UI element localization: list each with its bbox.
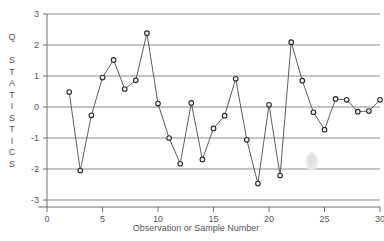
chart-container: Q STATISTICS 051015202530 -3-2-10123 Obs… bbox=[0, 0, 384, 241]
y-axis-label-letter: S bbox=[4, 55, 20, 67]
y-tick-label-1: 1 bbox=[34, 71, 39, 81]
data-point bbox=[367, 109, 372, 114]
y-axis-label: Q STATISTICS bbox=[4, 32, 20, 170]
y-axis-ticks bbox=[43, 14, 47, 200]
data-point bbox=[256, 181, 261, 186]
data-point bbox=[78, 168, 83, 173]
y-tick-label--1: -1 bbox=[31, 133, 39, 143]
series-q-statistic-line bbox=[69, 33, 380, 183]
x-tick-label-25: 25 bbox=[319, 214, 329, 224]
data-point bbox=[344, 98, 349, 103]
x-axis-ticks bbox=[47, 207, 380, 212]
data-point bbox=[311, 110, 316, 115]
y-tick-label-3: 3 bbox=[34, 9, 39, 19]
data-point bbox=[100, 75, 105, 80]
x-tick-label-5: 5 bbox=[100, 214, 105, 224]
data-point bbox=[378, 98, 383, 103]
data-point bbox=[167, 136, 172, 141]
data-point bbox=[211, 126, 216, 131]
data-point-markers bbox=[67, 31, 382, 186]
q-statistics-line-chart: 051015202530 -3-2-10123 Observation or S… bbox=[0, 0, 384, 241]
data-point bbox=[289, 40, 294, 45]
y-axis-label-letter: T bbox=[4, 124, 20, 136]
data-point bbox=[300, 78, 305, 83]
data-point bbox=[178, 161, 183, 166]
y-axis-label-letter: I bbox=[4, 136, 20, 148]
y-axis-tick-labels: -3-2-10123 bbox=[31, 9, 39, 205]
y-axis-label-letter bbox=[4, 44, 20, 56]
data-point bbox=[111, 58, 116, 63]
y-tick-label-2: 2 bbox=[34, 40, 39, 50]
y-tick-label-0: 0 bbox=[34, 102, 39, 112]
data-point bbox=[267, 103, 272, 108]
y-axis-label-letter: I bbox=[4, 101, 20, 113]
x-tick-label-20: 20 bbox=[264, 214, 274, 224]
x-tick-label-30: 30 bbox=[375, 214, 384, 224]
gridlines bbox=[47, 14, 380, 200]
data-point bbox=[322, 127, 327, 132]
data-point bbox=[189, 101, 194, 106]
y-tick-label--2: -2 bbox=[31, 164, 39, 174]
data-point bbox=[245, 138, 250, 143]
y-axis-label-letter: T bbox=[4, 90, 20, 102]
data-point bbox=[233, 76, 238, 81]
data-point bbox=[122, 87, 127, 92]
data-point bbox=[356, 109, 361, 114]
y-tick-label--3: -3 bbox=[31, 195, 39, 205]
data-point bbox=[67, 90, 72, 95]
x-axis-title: Observation or Sample Number bbox=[133, 223, 260, 233]
y-axis-label-letter: S bbox=[4, 113, 20, 125]
data-point bbox=[278, 173, 283, 178]
data-point bbox=[156, 101, 161, 106]
y-axis-label-letter: C bbox=[4, 147, 20, 159]
data-point bbox=[333, 97, 338, 102]
y-axis-label-letter: A bbox=[4, 78, 20, 90]
y-axis-label-letter: S bbox=[4, 159, 20, 171]
data-line-series bbox=[69, 33, 380, 183]
data-point bbox=[145, 31, 150, 36]
data-point bbox=[89, 113, 94, 118]
data-point bbox=[222, 113, 227, 118]
x-tick-label-0: 0 bbox=[44, 214, 49, 224]
y-axis-label-letter: T bbox=[4, 67, 20, 79]
axis-lines bbox=[38, 14, 380, 207]
y-axis-label-letter: Q bbox=[4, 32, 20, 44]
data-point bbox=[134, 78, 139, 83]
data-point bbox=[200, 157, 205, 162]
